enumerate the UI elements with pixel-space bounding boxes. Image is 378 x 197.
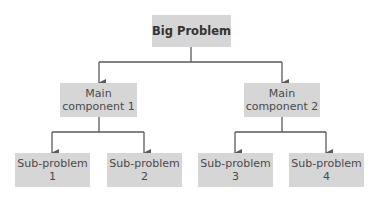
node-label: Main component 1: [62, 87, 135, 113]
node-sub-problem-2: Sub-problem 2: [107, 153, 182, 187]
node-sub-problem-4: Sub-problem 4: [289, 153, 364, 187]
node-big-problem: Big Problem: [152, 15, 231, 47]
node-main-component-2: Main component 2: [244, 83, 320, 117]
node-label: Main component 2: [246, 87, 319, 113]
node-sub-problem-3: Sub-problem 3: [198, 153, 273, 187]
node-sub-problem-1: Sub-problem 1: [15, 153, 90, 187]
node-label: Sub-problem 4: [291, 157, 361, 183]
node-main-component-1: Main component 1: [60, 83, 137, 117]
node-label: Sub-problem 3: [200, 157, 270, 183]
node-label: Sub-problem 2: [109, 157, 179, 183]
node-label: Big Problem: [152, 25, 231, 38]
node-label: Sub-problem 1: [17, 157, 87, 183]
